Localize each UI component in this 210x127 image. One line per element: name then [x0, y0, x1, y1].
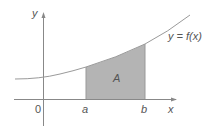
- curve-equation-label: y = f(x): [168, 31, 202, 42]
- y-axis-label: y: [32, 8, 38, 19]
- upper-bound-label: b: [141, 104, 147, 115]
- x-axis-arrow-icon: [171, 98, 177, 102]
- y-axis-arrow-icon: [42, 12, 46, 18]
- lower-bound-label: a: [82, 104, 88, 115]
- origin-label: 0: [35, 104, 41, 115]
- diagram-canvas: [0, 0, 210, 127]
- x-axis-label: x: [168, 104, 174, 115]
- region-area-label: A: [113, 73, 120, 84]
